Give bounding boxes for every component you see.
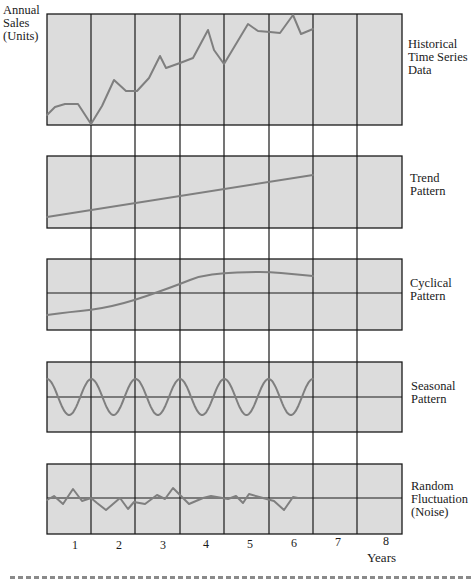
panel-label-line: Data [408,64,468,77]
x-tick-7: 7 [335,535,341,550]
panel-label-line: Pattern [410,185,445,198]
panel-label-historical: Historical Time Series Data [408,38,468,77]
panel-label-seasonal: Seasonal Pattern [411,380,455,406]
x-tick-6: 6 [291,536,297,551]
x-tick-4: 4 [203,537,209,552]
panel-label-trend: Trend Pattern [410,172,445,198]
panel-label-line: (Noise) [411,506,468,519]
x-tick-1: 1 [72,538,78,553]
dashed-separator [10,576,474,579]
x-axis-label: Years [367,551,396,564]
y-axis-label-line: (Units) [3,30,40,43]
time-series-components-chart [0,0,474,582]
panel-label-line: Pattern [411,393,455,406]
panel-label-random: Random Fluctuation (Noise) [411,480,468,519]
panel-label-line: Pattern [410,290,452,303]
y-axis-label: Annual Sales (Units) [3,4,40,43]
x-tick-5: 5 [247,537,253,552]
x-tick-8: 8 [383,534,389,549]
x-tick-3: 3 [160,538,166,553]
x-tick-2: 2 [116,538,122,553]
panel-label-cyclical: Cyclical Pattern [410,277,452,303]
